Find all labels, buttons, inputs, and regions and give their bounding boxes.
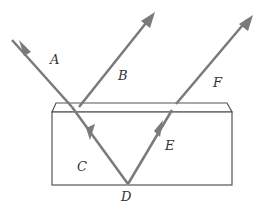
ray-b bbox=[79, 18, 150, 107]
block-top-face bbox=[52, 103, 232, 112]
label-d: D bbox=[120, 189, 132, 204]
ray-a bbox=[12, 40, 72, 107]
label-e: E bbox=[164, 138, 175, 153]
block-front-face bbox=[52, 112, 232, 185]
label-b: B bbox=[117, 68, 128, 83]
label-a: A bbox=[49, 52, 59, 67]
refraction-diagram: A B C D E F bbox=[0, 0, 258, 214]
label-f: F bbox=[212, 75, 223, 90]
ray-f bbox=[176, 20, 247, 104]
label-c: C bbox=[77, 159, 87, 174]
